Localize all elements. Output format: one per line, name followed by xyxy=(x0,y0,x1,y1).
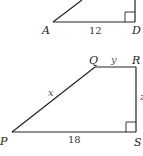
side-label-ad: 12 xyxy=(89,25,102,36)
vertex-label-r: R xyxy=(131,54,140,67)
vertex-label-a: A xyxy=(41,24,50,37)
vertex-label-d: D xyxy=(131,24,141,37)
hypotenuse-top xyxy=(53,0,82,22)
side-label-qr: y xyxy=(110,54,117,65)
right-angle-marker-d xyxy=(125,12,135,22)
side-label-rs: z xyxy=(139,91,143,102)
trapezoid-pqrs xyxy=(12,67,136,132)
side-label-ps: 18 xyxy=(68,134,81,145)
side-label-pq: x xyxy=(48,87,54,98)
vertex-label-q: Q xyxy=(89,54,98,67)
triangle-top xyxy=(53,0,135,22)
vertex-label-s: S xyxy=(134,136,142,149)
right-angle-marker-s xyxy=(126,122,136,132)
vertex-label-p: P xyxy=(0,135,8,148)
side-pq xyxy=(12,67,95,132)
geometry-diagram: A 12 D Q y R x z P 18 S xyxy=(0,0,143,156)
